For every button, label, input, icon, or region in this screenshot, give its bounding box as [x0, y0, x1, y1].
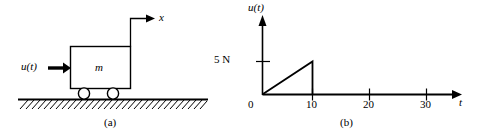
force-arrow-icon	[48, 63, 71, 74]
input-force-label: u(t)	[21, 61, 37, 72]
x-tick-label-20: 20	[363, 99, 374, 110]
panel-a-cart-diagram: u(t) m x (a)	[0, 0, 240, 138]
x-tick-label-30: 30	[420, 99, 431, 110]
cart-wheel-left	[78, 88, 89, 99]
panel-b-input-plot: u(t) 5 N 0 10 20 30 t (b)	[240, 0, 479, 138]
y-axis-label: u(t)	[248, 2, 264, 13]
panel-b-caption: (b)	[340, 117, 353, 128]
x-tick-label-10: 10	[306, 99, 317, 110]
waveform-ramp	[263, 62, 313, 95]
y-tick-label-amplitude: 5 N	[214, 54, 230, 65]
figure-container: u(t) m x (a) u(t)	[0, 0, 479, 138]
ground-hatching	[18, 100, 208, 110]
mass-label: m	[95, 62, 103, 73]
origin-label: 0	[248, 99, 254, 110]
panel-b-plot	[240, 0, 479, 138]
displacement-axis-icon	[131, 15, 156, 47]
x-axis-label: t	[459, 97, 462, 108]
panel-a-caption: (a)	[104, 117, 116, 128]
displacement-axis-label: x	[159, 12, 164, 23]
y-axis	[259, 15, 267, 95]
cart-wheel-right	[107, 88, 118, 99]
